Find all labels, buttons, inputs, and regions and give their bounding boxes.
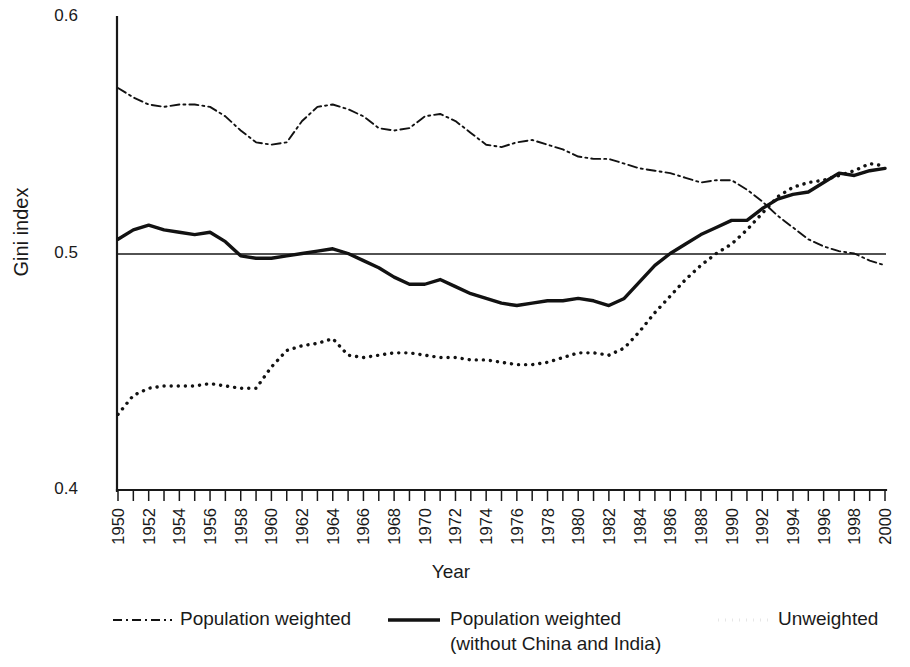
x-tick-label: 1992 [753, 508, 771, 545]
x-tick-label: 1966 [354, 508, 372, 545]
x-tick-label: 1954 [170, 508, 188, 545]
x-axis-title: Year [432, 561, 471, 582]
series-line-dash-dot [118, 88, 885, 265]
x-tick-label: 1960 [262, 508, 280, 545]
x-tick-label: 1990 [723, 508, 741, 545]
x-tick-label: 1958 [232, 508, 250, 545]
chart-canvas: 0.6 0.5 0.4 Gini index 19501952195419561… [0, 0, 910, 667]
x-tick-label: 1994 [784, 508, 802, 545]
x-tick-label: 1976 [508, 508, 526, 545]
series-line-dotted [118, 164, 885, 415]
legend-label-unweighted: Unweighted [778, 608, 878, 629]
x-tick-label: 1972 [446, 508, 464, 545]
x-tick-label: 1970 [416, 508, 434, 545]
x-tick-labels-group: 1950195219541956195819601962196419661968… [109, 508, 894, 545]
y-tick-label-1: 0.5 [54, 243, 78, 262]
x-tick-label: 1978 [539, 508, 557, 545]
x-tick-label: 1998 [845, 508, 863, 545]
x-tick-label: 1986 [661, 508, 679, 545]
y-axis-title: Gini index [10, 188, 32, 277]
x-tick-label: 1982 [600, 508, 618, 545]
chart-legend: Population weighted Population weighted … [113, 608, 878, 654]
x-tick-label: 1968 [385, 508, 403, 545]
x-tick-label: 1980 [569, 508, 587, 545]
legend-label-population-weighted-excl-line2: (without China and India) [450, 633, 661, 654]
x-tick-label: 1964 [324, 508, 342, 545]
x-tick-label: 1988 [692, 508, 710, 545]
x-tick-label: 1962 [293, 508, 311, 545]
gini-index-line-chart: 0.6 0.5 0.4 Gini index 19501952195419561… [0, 0, 910, 667]
x-tick-label: 1952 [140, 508, 158, 545]
legend-label-population-weighted-excl: Population weighted [450, 608, 621, 629]
data-series-group [118, 88, 885, 414]
legend-label-population-weighted: Population weighted [180, 608, 351, 629]
x-tick-label: 1956 [201, 508, 219, 545]
x-tick-marks-group [118, 491, 885, 501]
x-tick-label: 1974 [477, 508, 495, 545]
x-tick-label: 1996 [815, 508, 833, 545]
x-tick-label: 2000 [876, 508, 894, 545]
y-tick-label-0: 0.6 [54, 6, 78, 25]
series-line-solid [118, 168, 885, 305]
y-tick-label-2: 0.4 [54, 479, 78, 498]
x-tick-label: 1950 [109, 508, 127, 545]
x-tick-label: 1984 [631, 508, 649, 545]
